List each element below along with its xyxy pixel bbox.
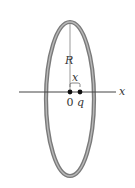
- ring-diagram: R x 0 q x: [0, 0, 135, 188]
- origin-label: 0: [67, 96, 74, 109]
- distance-label: x: [72, 71, 79, 84]
- charge-point: [78, 90, 83, 95]
- charge-label: q: [77, 96, 84, 109]
- axis-label: x: [119, 85, 126, 98]
- radius-label: R: [64, 54, 73, 67]
- origin-point: [68, 90, 73, 95]
